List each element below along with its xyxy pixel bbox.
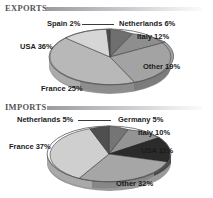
label-france: France 25% (41, 85, 83, 93)
label-netherlands: Netherlands 5% (17, 116, 73, 124)
header-rule-exports (46, 7, 202, 11)
callout-line-netherlands (78, 120, 111, 121)
exports-section: EXPORTS (0, 0, 213, 99)
label-netherlands: Netherlands 6% (119, 20, 175, 28)
label-spain: Spain 2% (47, 20, 80, 28)
label-usa: USA 36% (20, 43, 53, 51)
imports-header: IMPORTS (0, 102, 213, 114)
header-rule-imports (47, 106, 202, 110)
label-usa: USA 11% (141, 147, 173, 155)
label-italy: Italy 12% (137, 33, 169, 41)
label-france: France 37% (9, 143, 51, 151)
label-other: Other 19% (143, 63, 180, 71)
label-germany: Germany 5% (118, 116, 163, 124)
label-other: Other 32% (116, 180, 153, 188)
exports-header: EXPORTS (0, 3, 213, 15)
callout-line-spain (82, 24, 114, 25)
exports-header-label: EXPORTS (5, 3, 47, 13)
label-italy: Italy 10% (138, 129, 170, 137)
imports-header-label: IMPORTS (5, 102, 46, 112)
